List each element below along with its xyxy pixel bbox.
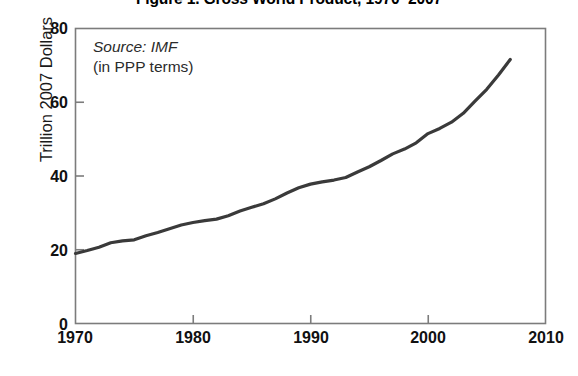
plot-frame: [76, 29, 546, 324]
chart-figure: Trillion 2007 Dollars 80 60 40 20 0 1970…: [0, 0, 578, 376]
data-line-gross-world-product: [76, 59, 511, 253]
plot-area: [0, 0, 578, 376]
y-tick-marks: [76, 102, 85, 250]
x-tick-marks: [193, 315, 428, 324]
